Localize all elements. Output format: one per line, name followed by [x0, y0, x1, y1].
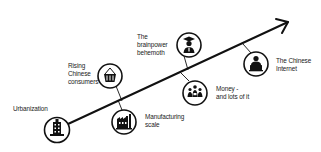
- internet-node: [244, 52, 268, 76]
- consumers-node: [98, 64, 122, 88]
- brainpower-node: [177, 33, 201, 57]
- label-brainpower: The brainpower behemoth: [137, 33, 168, 57]
- urbanization-node: [45, 118, 70, 143]
- label-manufacturing: Manufacturing scale: [145, 113, 184, 129]
- label-urbanization: Urbanization: [13, 105, 48, 113]
- timeline-diagram: [0, 0, 321, 152]
- label-money: Money - and lots of it: [216, 85, 249, 101]
- manufacturing-node: [112, 110, 136, 134]
- money-node: [183, 81, 207, 105]
- label-consumers: Rising Chinese consumers: [68, 62, 98, 86]
- label-internet: The Chinese Internet: [276, 57, 311, 73]
